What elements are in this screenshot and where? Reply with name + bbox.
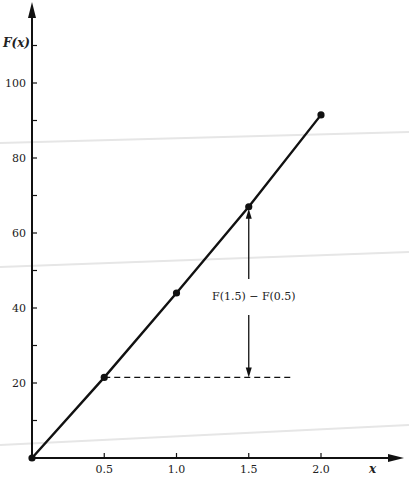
y-tick-label: 60 — [12, 227, 26, 240]
chart: 204060801000.51.01.52.0 F(x) x F(1.5) − … — [0, 0, 409, 483]
series-line — [32, 115, 321, 458]
x-axis-label: x — [368, 462, 377, 476]
data-point-marker — [28, 454, 35, 461]
x-axis-arrow-icon — [388, 454, 404, 462]
x-tick-label: 1.5 — [240, 463, 258, 476]
y-tick-label: 40 — [12, 302, 26, 315]
data-point-marker — [245, 203, 252, 210]
data-series — [28, 111, 324, 461]
arrow-down-icon — [246, 367, 252, 377]
y-tick-label: 80 — [12, 152, 26, 165]
difference-annotation-label: F(1.5) − F(0.5) — [212, 290, 296, 303]
paper-streaks — [0, 132, 409, 445]
data-point-marker — [173, 289, 180, 296]
data-point-marker — [101, 374, 108, 381]
x-tick-label: 0.5 — [96, 463, 114, 476]
axes — [28, 2, 404, 462]
x-tick-label: 2.0 — [312, 463, 330, 476]
y-tick-label: 100 — [5, 77, 26, 90]
data-point-marker — [317, 111, 324, 118]
x-tick-label: 1.0 — [168, 463, 186, 476]
y-tick-label: 20 — [12, 377, 26, 390]
y-axis-arrow-icon — [28, 2, 36, 18]
y-axis-label: F(x) — [2, 36, 30, 50]
